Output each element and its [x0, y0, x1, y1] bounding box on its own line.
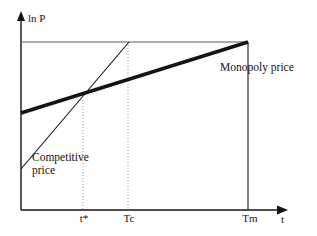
plot-canvas	[0, 0, 317, 236]
y-axis-label: ln P	[28, 12, 45, 25]
competitive-price-annotation: Competitiveprice	[32, 151, 89, 177]
competitive-price-annotation-line1: Competitive	[32, 151, 89, 163]
x-tick-label-tstar: t*	[73, 212, 95, 225]
economics-price-path-figure: ln P t t* Tc Tm Monopoly price Competiti…	[0, 0, 317, 236]
y-axis-arrowhead	[17, 11, 25, 21]
x-tick-label-tc: Tc	[118, 212, 140, 225]
competitive-price-annotation-line2: price	[32, 164, 89, 177]
competitive-price-line	[21, 42, 129, 169]
monopoly-price-annotation: Monopoly price	[220, 61, 294, 74]
monopoly-price-line	[21, 42, 248, 113]
x-axis-label: t	[281, 213, 284, 226]
x-tick-label-tm: Tm	[239, 212, 261, 225]
